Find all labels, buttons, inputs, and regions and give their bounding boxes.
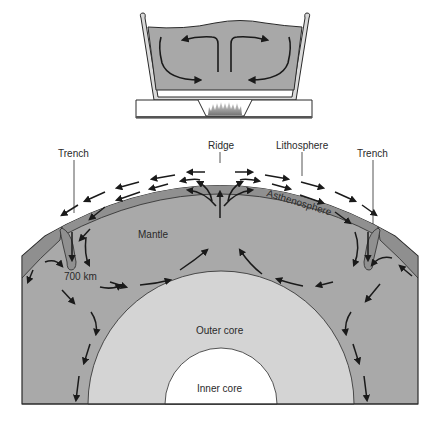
label-ridge: Ridge xyxy=(208,141,234,151)
pot-illustration xyxy=(136,13,312,118)
label-outer-core: Outer core xyxy=(196,326,243,336)
pot-liquid xyxy=(148,21,302,91)
label-trench-left: Trench xyxy=(58,149,89,159)
label-inner-core: Inner core xyxy=(197,384,242,394)
label-lithosphere: Lithosphere xyxy=(276,141,328,151)
label-mantle: Mantle xyxy=(138,230,168,240)
label-700km: 700 km xyxy=(64,272,97,282)
convection-diagram: Asthenosphere Ridge Lithosphere Trench T… xyxy=(0,0,439,423)
label-trench-right: Trench xyxy=(357,149,388,159)
